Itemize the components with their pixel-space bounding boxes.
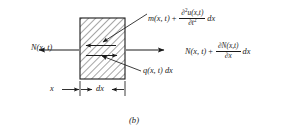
dimension-x-label: x bbox=[50, 85, 54, 93]
figure-caption: (b) bbox=[129, 116, 139, 125]
right-force-trailing: dx bbox=[243, 47, 251, 56]
top-force-denominator: ∂t2 bbox=[179, 19, 205, 28]
dimension-x-text: x bbox=[50, 84, 54, 93]
right-force-fraction: ∂N(x,t)∂x bbox=[216, 42, 241, 60]
dimension-line bbox=[62, 81, 125, 96]
figure-caption-text: (b) bbox=[129, 115, 139, 125]
top-force-trailing: dx bbox=[207, 14, 215, 23]
left-force-label: N(x, t) bbox=[31, 44, 52, 52]
top-force-den-order: 2 bbox=[194, 16, 197, 22]
right-force-plus: + bbox=[208, 47, 213, 56]
right-force-label: N(x, t)+∂N(x,t)∂xdx bbox=[185, 42, 250, 60]
top-force-base: m(x, t) bbox=[148, 14, 170, 23]
free-body-diagram bbox=[0, 0, 283, 138]
distributed-load-label: q(x, t) dx bbox=[143, 67, 173, 75]
top-force-plus: + bbox=[172, 14, 177, 23]
right-force-base: N(x, t) bbox=[185, 47, 206, 56]
dimension-dx-text: dx bbox=[96, 84, 104, 93]
dimension-dx-label: dx bbox=[96, 85, 104, 93]
left-force-text: N(x, t) bbox=[31, 43, 52, 52]
top-force-label: m(x, t)+∂2u(x,t)∂t2dx bbox=[148, 9, 215, 27]
top-force-fraction: ∂2u(x,t)∂t2 bbox=[179, 9, 205, 27]
element-box bbox=[80, 18, 125, 79]
distributed-load-text: q(x, t) dx bbox=[143, 66, 173, 75]
right-force-denominator: ∂x bbox=[216, 52, 241, 61]
